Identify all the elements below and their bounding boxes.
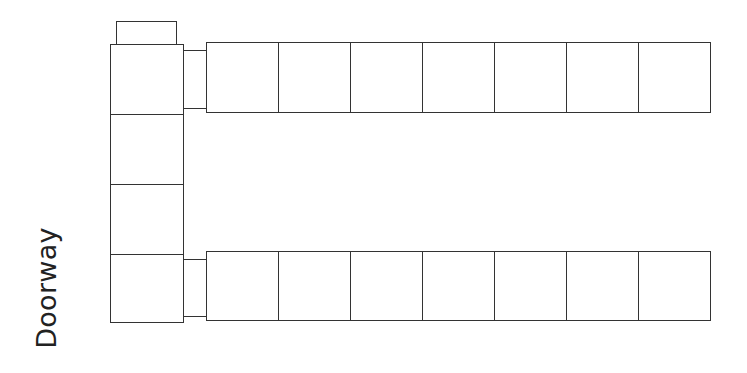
top-row-box-6 [566,42,639,113]
top-tab-box [116,21,177,45]
connector-box-1 [183,50,207,109]
bottom-row-box-2 [278,251,351,321]
bottom-row-box-1 [206,251,279,321]
top-row-box-7 [638,42,711,113]
bottom-row-box-4 [422,251,495,321]
bottom-row-box-5 [494,251,567,321]
top-row-box-2 [278,42,351,113]
bottom-row-box-7 [638,251,711,321]
top-row-box-5 [494,42,567,113]
left-column-box-1 [110,44,184,115]
connector-box-2 [183,259,207,317]
top-row-box-4 [422,42,495,113]
top-row-box-1 [206,42,279,113]
left-column-box-4 [110,254,184,323]
left-column-box-2 [110,114,184,185]
doorway-label: Doorway [31,227,62,349]
left-column-box-3 [110,184,184,255]
bottom-row-box-6 [566,251,639,321]
top-row-box-3 [350,42,423,113]
bottom-row-box-3 [350,251,423,321]
